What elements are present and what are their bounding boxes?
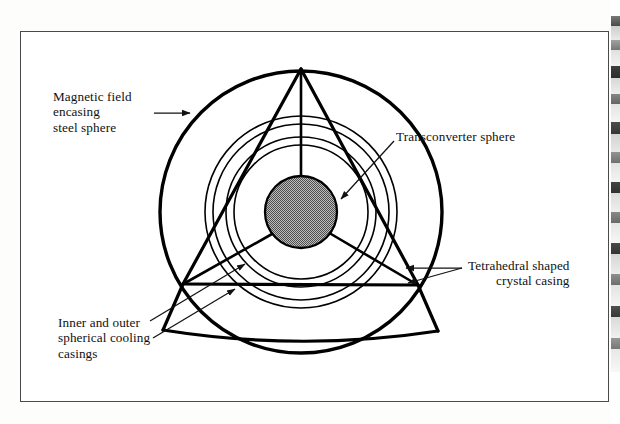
cooling-leader-upper (150, 264, 245, 321)
tetra-edge-apex-right (301, 69, 418, 285)
label-transconverter-sphere: Transconverter sphere (396, 129, 515, 144)
page-canvas: Magnetic field encasing steel sphere Tra… (0, 0, 620, 424)
label-tetrahedral-casing: Tetrahedral shaped crystal casing (468, 258, 570, 289)
tetra-rear-edge-bottom (163, 330, 438, 341)
transconverter-sphere (265, 176, 337, 248)
label-magnetic-field: Magnetic field encasing steel sphere (53, 89, 132, 135)
tetra-edge-base (183, 284, 418, 285)
tetrahedral-leader-lower (408, 268, 462, 283)
tetra-perspective-edge-right (418, 285, 438, 331)
label-cooling-casings: Inner and outer spherical cooling casing… (58, 315, 150, 361)
scan-edge-artifact (611, 0, 620, 424)
